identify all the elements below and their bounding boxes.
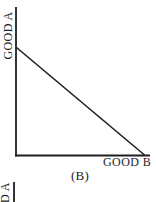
y-axis-label: GOOD A (2, 6, 15, 66)
frontier-line (17, 48, 145, 156)
x-axis-label: GOOD B (103, 156, 155, 169)
figure-panel-b: GOOD A GOOD B (B) D A (0, 0, 156, 202)
panel-label: (B) (60, 169, 100, 182)
next-figure-y-axis-label-partial: D A (0, 180, 12, 202)
